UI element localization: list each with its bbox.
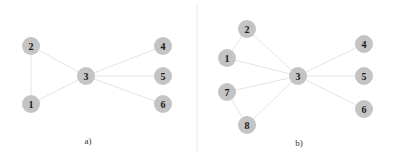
node-label: 1 xyxy=(29,99,34,110)
node-label: 6 xyxy=(161,99,166,110)
node-label: 5 xyxy=(362,71,367,82)
edge-3-4 xyxy=(298,44,364,76)
graph-node-5: 5 xyxy=(355,67,373,85)
graph-panel-a: 123456a) xyxy=(22,37,172,146)
node-label: 2 xyxy=(29,41,34,52)
node-label: 7 xyxy=(225,87,230,98)
graph-node-8: 8 xyxy=(238,116,256,134)
graph-node-1: 1 xyxy=(218,49,236,67)
node-label: 3 xyxy=(84,71,89,82)
graph-node-1: 1 xyxy=(22,95,40,113)
graph-node-7: 7 xyxy=(218,83,236,101)
edge-3-6 xyxy=(86,76,163,104)
graph-node-6: 6 xyxy=(355,100,373,118)
graph-figure: 123456a)12345678b) xyxy=(0,0,393,158)
node-label: 6 xyxy=(362,104,367,115)
graph-node-4: 4 xyxy=(355,35,373,53)
edge-7-3 xyxy=(227,76,298,92)
node-label: 2 xyxy=(245,24,250,35)
node-label: 1 xyxy=(225,53,230,64)
graph-node-2: 2 xyxy=(22,37,40,55)
node-label: 4 xyxy=(161,41,166,52)
node-label: 8 xyxy=(245,120,250,131)
node-label: 3 xyxy=(296,71,301,82)
edge-2-3 xyxy=(31,46,86,76)
graph-node-3: 3 xyxy=(289,67,307,85)
node-label: 4 xyxy=(362,39,367,50)
edge-1-3 xyxy=(31,76,86,104)
graph-node-2: 2 xyxy=(238,20,256,38)
graph-node-6: 6 xyxy=(154,95,172,113)
edge-2-3 xyxy=(247,29,298,76)
edges xyxy=(31,46,163,104)
node-label: 5 xyxy=(161,71,166,82)
edge-3-6 xyxy=(298,76,364,109)
edge-1-3 xyxy=(227,58,298,76)
graph-panel-b: 12345678b) xyxy=(218,20,373,148)
graph-node-4: 4 xyxy=(154,37,172,55)
panel-caption: b) xyxy=(295,138,303,148)
graph-node-3: 3 xyxy=(77,67,95,85)
panel-caption: a) xyxy=(85,136,92,146)
edge-3-4 xyxy=(86,46,163,76)
edge-8-3 xyxy=(247,76,298,125)
graph-node-5: 5 xyxy=(154,67,172,85)
